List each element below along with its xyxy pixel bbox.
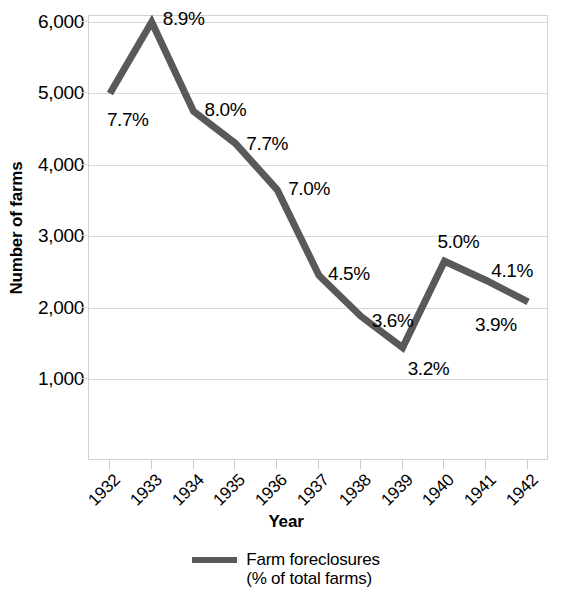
x-axis-tick-label: 1932 — [78, 471, 123, 516]
x-axis-tick-label: 1937 — [287, 471, 332, 516]
y-axis-tick-label: 1,000 — [10, 369, 84, 388]
y-axis-tick-mark — [80, 164, 87, 165]
y-axis-tick-mark — [80, 92, 87, 93]
data-point-label: 3.2% — [408, 359, 450, 378]
x-axis-tick-mark — [360, 460, 361, 469]
x-axis-tick-mark — [234, 460, 235, 469]
x-axis-tick-label: 1938 — [329, 471, 374, 516]
x-axis-tick-label: 1936 — [246, 471, 291, 516]
x-axis-tick-label: 1942 — [497, 471, 542, 516]
y-axis-tick-label: 6,000 — [10, 12, 84, 31]
data-point-label: 7.0% — [288, 179, 330, 198]
x-axis-tick-label: 1935 — [204, 471, 249, 516]
legend-label: Farm foreclosures (% of total farms) — [246, 550, 380, 588]
data-point-label: 4.1% — [491, 261, 533, 280]
x-axis-tick-mark — [109, 460, 110, 469]
data-line-svg — [89, 16, 549, 461]
y-axis-tick-label: 5,000 — [10, 83, 84, 102]
data-point-label: 8.0% — [205, 100, 247, 119]
data-point-label: 7.7% — [246, 134, 288, 153]
y-axis-tick-label: 2,000 — [10, 298, 84, 317]
legend-color-swatch — [192, 557, 237, 563]
x-axis-tick-mark — [402, 460, 403, 469]
farm-foreclosures-line-chart: Number of farms 6,0005,0004,0003,0002,00… — [0, 0, 572, 590]
x-axis-tick-label: 1933 — [120, 471, 165, 516]
x-axis-tick-mark — [276, 460, 277, 469]
y-axis-tick-mark — [80, 378, 87, 379]
x-axis-tick-label: 1940 — [413, 471, 458, 516]
y-axis-tick-mark — [80, 235, 87, 236]
y-axis-tick-label: 3,000 — [10, 226, 84, 245]
data-point-label: 4.5% — [328, 264, 370, 283]
data-point-label: 3.6% — [372, 311, 414, 330]
y-axis-tick-labels: 6,0005,0004,0003,0002,0001,000 — [0, 0, 84, 590]
x-axis-tick-label: 1934 — [162, 471, 207, 516]
chart-legend: Farm foreclosures (% of total farms) — [0, 550, 572, 588]
data-point-label: 3.9% — [475, 315, 517, 334]
legend-label-line2: (% of total farms) — [246, 569, 380, 588]
x-axis-tick-mark — [485, 460, 486, 469]
x-axis-tick-mark — [151, 460, 152, 469]
x-axis-tick-mark — [527, 460, 528, 469]
data-point-label: 5.0% — [437, 232, 479, 251]
y-axis-tick-mark — [80, 307, 87, 308]
x-axis-tick-mark — [318, 460, 319, 469]
x-axis-tick-mark — [193, 460, 194, 469]
y-axis-tick-mark — [80, 21, 87, 22]
x-axis-tick-label: 1939 — [371, 471, 416, 516]
data-point-label: 8.9% — [163, 9, 205, 28]
x-axis-title: Year — [0, 512, 572, 532]
data-point-label: 7.7% — [107, 110, 149, 129]
x-axis-tick-label: 1941 — [455, 471, 500, 516]
x-axis-tick-mark — [443, 460, 444, 469]
y-axis-tick-label: 4,000 — [10, 155, 84, 174]
legend-label-line1: Farm foreclosures — [246, 550, 380, 569]
